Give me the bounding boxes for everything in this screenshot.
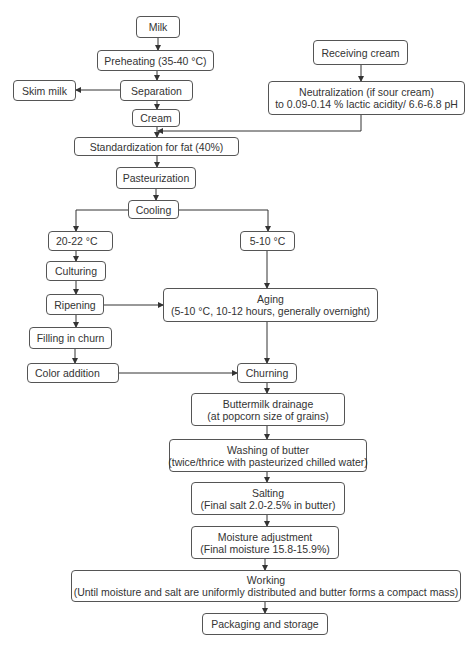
node-label-line: Milk	[149, 21, 168, 33]
node-label-line: Ripening	[54, 299, 95, 311]
node-label-line: Buttermilk drainage	[223, 398, 313, 410]
node-label-line: Aging	[257, 293, 284, 305]
edge-cooling-to-temp-5-10	[179, 210, 268, 231]
node-label-line: Filling in churn	[37, 332, 105, 344]
node-temp-20-22: 20-22 °C	[48, 231, 113, 251]
node-label-line: to 0.09-0.14 % lactic acidity/ 6.6-6.8 p…	[275, 98, 458, 110]
node-buttermilk: Buttermilk drainage(at popcorn size of g…	[191, 393, 345, 426]
node-standardization: Standardization for fat (40%)	[74, 137, 239, 156]
node-label-line: (5-10 °C, 10-12 hours, generally overnig…	[171, 305, 370, 317]
node-cream: Cream	[132, 109, 180, 127]
node-label-line: Moisture adjustment	[218, 531, 313, 543]
node-label-line: (Until moisture and salt are uniformly d…	[74, 586, 459, 598]
node-label-line: Skim milk	[22, 85, 67, 97]
node-label-line: Churning	[246, 367, 289, 379]
node-preheating: Preheating (35-40 °C)	[97, 50, 214, 71]
edge-neutralization-to-standardization	[158, 115, 361, 131]
node-receiving-cream: Receiving cream	[313, 40, 408, 65]
node-cooling: Cooling	[128, 200, 179, 219]
node-label-line: Standardization for fat (40%)	[90, 141, 224, 153]
node-label-line: Working	[247, 574, 285, 586]
node-label-line: (Final salt 2.0-2.5% in butter)	[201, 499, 336, 511]
node-temp-5-10: 5-10 °C	[240, 231, 295, 251]
node-label-line: Culturing	[55, 265, 97, 277]
node-filling: Filling in churn	[29, 327, 112, 349]
node-skim-milk: Skim milk	[13, 80, 76, 101]
node-label-line: (twice/thrice with pasteurized chilled w…	[168, 456, 368, 468]
node-label-line: Salting	[252, 487, 284, 499]
node-label-line: Preheating (35-40 °C)	[104, 55, 206, 67]
node-milk: Milk	[136, 16, 180, 38]
node-salting: Salting(Final salt 2.0-2.5% in butter)	[191, 482, 345, 515]
node-label-line: Color addition	[35, 367, 100, 379]
node-washing: Washing of butter(twice/thrice with past…	[169, 439, 367, 472]
node-label-line: Neutralization (if sour cream)	[299, 86, 434, 98]
node-label-line: 5-10 °C	[250, 235, 286, 247]
node-separation: Separation	[120, 80, 193, 101]
node-label-line: Packaging and storage	[211, 618, 318, 630]
node-color-addition: Color addition	[27, 363, 119, 383]
node-label-line: Cooling	[136, 204, 172, 216]
node-label-line: Pasteurization	[123, 172, 190, 184]
node-label-line: Receiving cream	[321, 47, 399, 59]
flowchart-canvas: Milk Preheating (35-40 °C) Separation Sk…	[0, 0, 475, 646]
node-working: Working(Until moisture and salt are unif…	[71, 570, 461, 602]
node-neutralization: Neutralization (if sour cream)to 0.09-0.…	[268, 81, 465, 115]
node-pasteurization: Pasteurization	[116, 167, 196, 189]
node-ripening: Ripening	[46, 294, 104, 315]
node-label-line: Separation	[131, 85, 182, 97]
node-label-line: (at popcorn size of grains)	[207, 410, 328, 422]
node-label-line: Cream	[140, 112, 172, 124]
node-packaging: Packaging and storage	[202, 613, 328, 635]
edge-cooling-to-temp-20-22	[76, 210, 128, 231]
node-moisture: Moisture adjustment(Final moisture 15.8-…	[191, 526, 339, 559]
node-aging: Aging(5-10 °C, 10-12 hours, generally ov…	[163, 288, 378, 322]
node-churning: Churning	[237, 363, 297, 383]
node-label-line: Washing of butter	[227, 444, 309, 456]
node-label-line: 20-22 °C	[56, 235, 98, 247]
node-culturing: Culturing	[46, 261, 106, 281]
node-label-line: (Final moisture 15.8-15.9%)	[200, 543, 330, 555]
